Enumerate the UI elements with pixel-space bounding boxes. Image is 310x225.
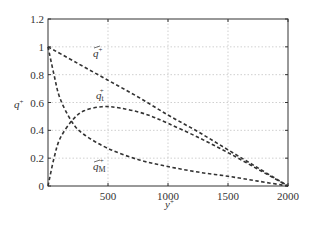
x-tick-label: 2000 [277, 190, 300, 202]
annotation-qbar: q+ [93, 46, 103, 59]
line-chart: 00.20.40.60.811.2 500100015002000 y+ q+ … [0, 0, 310, 225]
annotation-qm: qM+ [93, 157, 106, 174]
y-tick-label: 0.8 [30, 69, 44, 81]
y-tick-label: 1.2 [30, 13, 44, 25]
y-axis-label: q+ [14, 98, 24, 110]
y-tick-label: 1 [39, 41, 45, 53]
y-tick-label: 0.6 [30, 97, 44, 109]
annotation-qt: qt+ [96, 87, 105, 103]
svg-text:q+: q+ [93, 46, 103, 59]
svg-text:qM+: qM+ [93, 157, 106, 174]
data-series [48, 47, 288, 186]
x-tick-label: 500 [100, 190, 117, 202]
grid-lines [48, 19, 288, 186]
x-tick-label: 1500 [217, 190, 240, 202]
x-tick-labels: 500100015002000 [100, 190, 300, 202]
y-tick-label: 0 [39, 180, 45, 192]
y-tick-labels: 00.20.40.60.811.2 [30, 13, 44, 192]
svg-text:qt+: qt+ [96, 87, 105, 103]
y-tick-label: 0.2 [30, 152, 44, 164]
y-tick-label: 0.4 [30, 124, 44, 136]
x-axis-label: y+ [164, 198, 174, 210]
